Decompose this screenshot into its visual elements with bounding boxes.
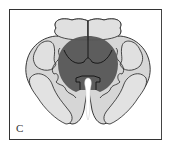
cross-section-diagram: [0, 0, 171, 152]
panel-label: C: [16, 123, 23, 134]
